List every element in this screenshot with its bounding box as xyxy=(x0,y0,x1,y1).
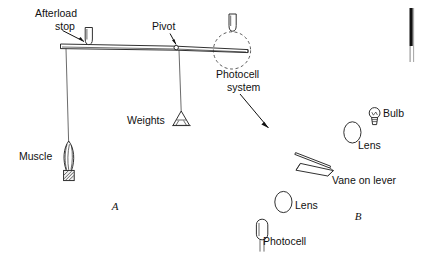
label-weights: Weights xyxy=(127,114,165,126)
afterload-stop xyxy=(85,28,92,45)
label-lens-lower: Lens xyxy=(295,199,318,211)
light-bulb xyxy=(369,108,380,125)
page-edge-artifact xyxy=(410,8,415,62)
label-lens-upper: Lens xyxy=(358,139,381,151)
lever-beam xyxy=(61,44,249,53)
panel-letter-a: A xyxy=(111,200,119,212)
pivot-point xyxy=(174,45,178,49)
muscle-preparation xyxy=(64,141,75,181)
label-bulb: Bulb xyxy=(383,107,404,119)
panel-b-group: Bulb Lens Vane on lever Lens Photocell B xyxy=(256,107,404,252)
label-afterload-stop-line2: stop xyxy=(55,20,75,32)
label-pivot: Pivot xyxy=(152,20,175,32)
label-photocell: Photocell xyxy=(263,235,306,247)
lens-lower xyxy=(275,191,292,212)
leader-afterload-stop xyxy=(63,31,85,42)
label-vane-on-lever: Vane on lever xyxy=(332,174,397,186)
vane-marker-on-lever xyxy=(229,14,236,31)
label-afterload-stop-line1: Afterload xyxy=(35,7,77,19)
leader-pivot xyxy=(170,34,176,45)
muscle-thread xyxy=(66,49,69,141)
pointer-to-panel-b xyxy=(240,94,269,128)
diagram-canvas: Afterload stop Pivot Weights Muscle Phot… xyxy=(0,0,421,265)
panel-letter-b: B xyxy=(355,210,362,222)
figure-root: Afterload stop Pivot Weights Muscle Phot… xyxy=(0,0,421,265)
weights-thread xyxy=(179,50,181,111)
label-photocell-system-line1: Photocell xyxy=(216,68,259,80)
label-muscle: Muscle xyxy=(19,150,52,162)
weights-pan xyxy=(172,111,191,126)
label-photocell-system-line2: system xyxy=(227,81,261,93)
panel-a-group: Afterload stop Pivot Weights Muscle Phot… xyxy=(19,7,269,212)
vane-on-lever xyxy=(295,153,334,176)
